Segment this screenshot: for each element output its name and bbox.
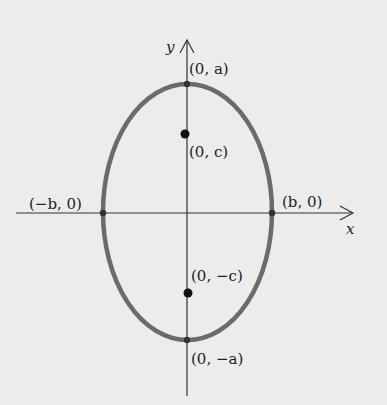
left-vertex-label: (−b, 0) (29, 195, 82, 213)
vertex-bottom-point (184, 337, 190, 343)
bottom-vertex-label: (0, −a) (191, 350, 243, 368)
ellipse-diagram: y x (0, a) (0, c) (−b, 0) (b, 0) (0, −c)… (0, 0, 387, 405)
focus-bottom-point (184, 289, 193, 298)
vertex-right-point (269, 210, 275, 216)
top-vertex-label: (0, a) (189, 60, 229, 78)
right-vertex-label: (b, 0) (282, 193, 322, 211)
focus-top-point (181, 130, 190, 139)
x-axis-label: x (346, 220, 355, 238)
focus-top-label: (0, c) (189, 143, 228, 161)
diagram-canvas: y x (0, a) (0, c) (−b, 0) (b, 0) (0, −c)… (0, 0, 387, 405)
vertex-left-point (100, 210, 106, 216)
vertex-top-point (184, 81, 190, 87)
y-axis-label: y (165, 38, 175, 56)
focus-bottom-label: (0, −c) (191, 267, 243, 285)
